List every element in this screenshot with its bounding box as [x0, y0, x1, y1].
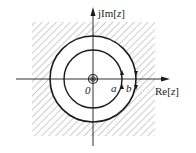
point-b-label: b: [126, 82, 132, 94]
origin-pole-dot: [92, 78, 94, 80]
real-axis-arrow-icon: [161, 77, 170, 82]
complex-plane-diagram: jIm[z] Re[z] 0 a b: [0, 0, 196, 153]
imag-axis-arrow-icon: [91, 7, 96, 16]
real-axis-label: Re[z]: [155, 85, 179, 97]
origin-label: 0: [85, 84, 91, 96]
point-a-label: a: [111, 82, 117, 94]
imag-axis-label: jIm[z]: [97, 7, 125, 19]
